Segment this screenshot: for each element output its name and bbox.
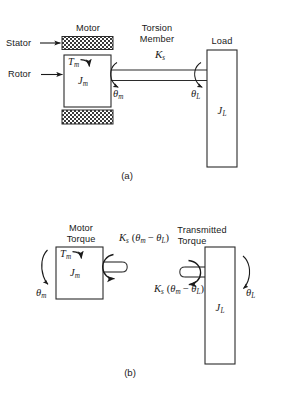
- ks-sub-a: s: [162, 54, 165, 62]
- theta-m-symbol-a: θm: [113, 89, 123, 102]
- diagram-vector-layer: [0, 0, 282, 394]
- spring-torque-expression-lower-b: Ks (θm − θL): [154, 284, 204, 297]
- motor-inertia-symbol-b: Jm: [70, 268, 80, 281]
- rotor-label: Rotor: [8, 69, 31, 80]
- stator-label: Stator: [6, 38, 31, 49]
- spring-torque-expression-upper-b: Ks (θm − θL): [119, 233, 169, 246]
- motor-inertia-symbol-a: Jm: [78, 76, 88, 89]
- stator-block-upper: [62, 37, 113, 50]
- thetam-sub-a: m: [118, 93, 123, 101]
- motor-torque-symbol-b: Tm: [60, 249, 71, 262]
- jm-sub-a: m: [83, 80, 88, 88]
- transmitted-torque-label-line2-b: Torque: [178, 236, 207, 247]
- load-inertia-symbol-b: JL: [216, 303, 225, 316]
- transmitted-torque-arrow-load: [189, 261, 201, 285]
- spring-torque-leader-motor: [122, 246, 125, 252]
- ksexpr-close-lower: ): [200, 283, 204, 294]
- theta-l-symbol-b: θL: [246, 288, 255, 301]
- torsion-member-label-line2: Member: [140, 34, 174, 45]
- jl-sub-a: L: [222, 110, 226, 118]
- reaction-torque-arrow-motor: [103, 255, 115, 279]
- jm-sub-b: m: [75, 272, 80, 280]
- panel-a-caption: (a): [121, 170, 133, 181]
- tm-sub-a: m: [74, 61, 79, 69]
- load-inertia-symbol-a: JL: [218, 106, 227, 119]
- spring-constant-symbol-a: Ks: [155, 49, 165, 63]
- torsion-shaft: [111, 70, 207, 81]
- motor-torque-label-line1-b: Motor: [69, 223, 93, 234]
- thetam-sub-b: m: [41, 292, 46, 300]
- theta-l-rotation-arc-a: [195, 63, 203, 88]
- transmitted-torque-label-line1-b: Transmitted: [177, 225, 226, 236]
- torsion-member-label-line1: Torsion: [142, 23, 172, 34]
- tm-sub-b: m: [66, 253, 71, 261]
- stator-block-lower: [62, 110, 113, 124]
- ksexpr-close-upper: ): [165, 232, 169, 243]
- motor-label: Motor: [76, 23, 100, 34]
- figure-root: Stator Rotor Motor Torsion Member Load T…: [0, 0, 282, 394]
- theta-l-symbol-a: θL: [191, 89, 200, 102]
- motor-torque-label-line2-b: Torque: [67, 234, 96, 245]
- thetal-sub-a: L: [196, 93, 200, 101]
- jl-sub-b: L: [220, 307, 224, 315]
- theta-l-rotation-arc-b: [243, 256, 250, 289]
- load-label: Load: [212, 36, 233, 47]
- motor-torque-symbol-a: Tm: [68, 57, 79, 70]
- theta-m-symbol-b: θm: [36, 288, 46, 301]
- panel-b-caption: (b): [124, 367, 136, 378]
- theta-m-rotation-arc-b: [42, 250, 48, 284]
- theta-m-rotation-arc-a: [111, 63, 119, 88]
- shaft-stub-motor: [103, 262, 127, 272]
- thetal-sub-b: L: [251, 292, 255, 300]
